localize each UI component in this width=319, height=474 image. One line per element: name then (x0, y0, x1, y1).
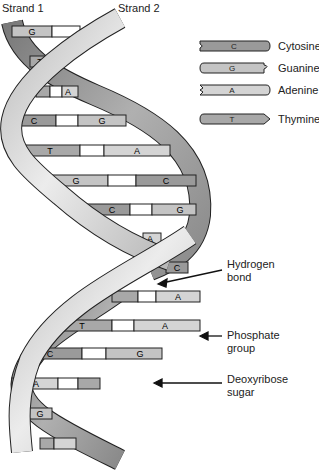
base-pair-7: C G (86, 204, 196, 215)
svg-text:T: T (230, 115, 235, 124)
legend-label-guanine: Guanine (278, 62, 319, 75)
base-pair-14: G (28, 408, 52, 419)
adenine-glyph (200, 85, 270, 95)
svg-text:A: A (65, 87, 71, 97)
svg-text:G: G (36, 409, 43, 419)
base-pair-1: G (12, 26, 80, 37)
svg-text:C: C (231, 42, 237, 51)
svg-text:G: G (28, 27, 35, 37)
svg-text:G: G (229, 64, 235, 73)
phosphate-group-label: Phosphate group (227, 329, 280, 355)
svg-text:G: G (72, 176, 79, 186)
svg-text:G: G (176, 205, 183, 215)
svg-text:A: A (175, 292, 181, 302)
base-pair-15 (40, 438, 76, 449)
legend-glyphs: C G A T (200, 41, 270, 124)
legend-label-adenine: Adenine (278, 84, 318, 97)
legend-label-thymine: Thymine (278, 113, 319, 126)
svg-text:G: G (136, 349, 143, 359)
deoxyribose-sugar-label: Deoxyribose sugar (227, 373, 288, 399)
svg-text:A: A (134, 146, 140, 156)
base-pair-5: T A (16, 145, 170, 156)
base-pair-4: C G (12, 115, 126, 126)
base-pair-6: G C (44, 175, 196, 186)
base-pair-9: C (166, 262, 188, 273)
svg-text:T: T (47, 146, 53, 156)
base-pair-10: A (112, 291, 200, 302)
svg-text:A: A (162, 321, 168, 331)
svg-text:T: T (79, 321, 85, 331)
svg-text:C: C (109, 205, 116, 215)
svg-text:C: C (31, 116, 38, 126)
svg-text:C: C (163, 176, 170, 186)
hydrogen-bond-label: Hydrogen bond (227, 258, 275, 284)
svg-text:A: A (229, 86, 235, 95)
svg-text:C: C (174, 263, 181, 273)
svg-text:G: G (98, 116, 105, 126)
thymine-glyph (200, 114, 270, 124)
dna-helix-diagram: G T A C G T A G (0, 0, 319, 474)
base-pair-11: T A (56, 320, 200, 331)
legend-label-cytosine: Cytosine (278, 40, 319, 53)
